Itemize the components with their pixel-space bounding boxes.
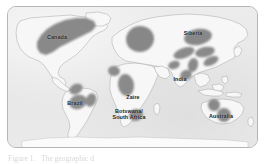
land-japan <box>234 46 242 57</box>
figure-caption: Figure 1. The geographic d <box>8 154 208 164</box>
world-map-figure: Canada Brazil Zaire Botswana/ South Afri… <box>0 0 271 164</box>
land-southeast-asia <box>194 73 210 87</box>
land-borneo <box>212 84 224 91</box>
figure-caption-text: Figure 1. The geographic d <box>8 154 208 164</box>
land-new-guinea <box>226 92 242 97</box>
land-new-zealand <box>248 117 254 127</box>
map-frame: Canada Brazil Zaire Botswana/ South Afri… <box>7 6 258 148</box>
land-madagascar <box>154 103 160 115</box>
world-map <box>8 7 258 148</box>
land-philippines <box>222 76 228 84</box>
land-antarctica <box>22 137 248 148</box>
